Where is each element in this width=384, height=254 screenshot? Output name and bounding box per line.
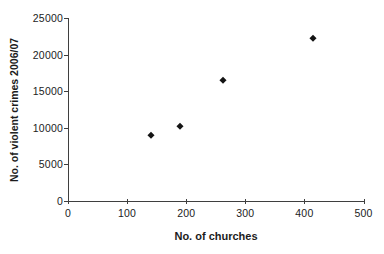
x-tick-label: 400: [284, 207, 324, 219]
x-tick-label: 0: [48, 207, 88, 219]
x-tick-mark: [127, 199, 128, 204]
y-tick-mark: [64, 91, 68, 92]
y-tick-label: 15000: [18, 85, 63, 97]
scatter-point-marker: [177, 122, 183, 128]
scatter-point-marker: [310, 35, 316, 41]
y-tick-mark: [64, 18, 68, 19]
y-tick-label: 10000: [18, 122, 63, 134]
scatter-chart: No. of violent crimes 2006/07 0500010000…: [0, 0, 384, 254]
scatter-point-marker: [147, 132, 153, 138]
y-tick-label: 0: [18, 195, 63, 207]
x-tick-mark: [186, 199, 187, 204]
x-tick-label: 300: [225, 207, 265, 219]
y-tick-mark: [64, 128, 68, 129]
y-tick-mark: [64, 164, 68, 165]
y-axis-line: [68, 18, 69, 202]
y-tick-label: 25000: [18, 12, 63, 24]
x-tick-mark: [364, 199, 365, 204]
x-axis-title: No. of churches: [146, 230, 286, 243]
x-tick-mark: [245, 199, 246, 204]
scatter-point-marker: [220, 77, 226, 83]
x-axis-line: [68, 201, 364, 202]
x-tick-mark: [304, 199, 305, 204]
y-tick-label: 5000: [18, 158, 63, 170]
x-tick-label: 200: [166, 207, 206, 219]
x-tick-label: 100: [107, 207, 147, 219]
y-tick-label: 20000: [18, 49, 63, 61]
y-tick-mark: [64, 55, 68, 56]
x-tick-label: 500: [344, 207, 384, 219]
y-axis-title: No. of violent crimes 2006/07: [7, 14, 21, 206]
x-tick-mark: [68, 199, 69, 204]
